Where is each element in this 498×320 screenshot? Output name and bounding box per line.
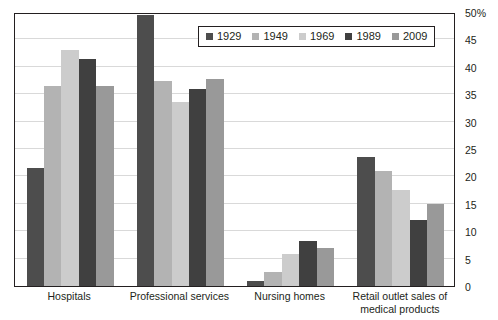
bar-group [27, 14, 114, 286]
y-axis-tick-label: 20 [465, 172, 477, 183]
y-axis-tick-label: 30 [465, 118, 477, 129]
x-axis-label-line: medical products [333, 303, 467, 316]
bar [189, 89, 206, 286]
legend-label: 1969 [310, 31, 334, 42]
bar [44, 86, 61, 286]
bar [96, 86, 113, 286]
y-axis-tick-label: 25 [465, 145, 477, 156]
bar [61, 50, 78, 286]
bar [137, 15, 154, 286]
legend-item[interactable]: 1989 [345, 31, 380, 42]
y-axis-tick-label: 50% [465, 8, 486, 19]
bar [392, 190, 409, 286]
y-axis-tick-label: 5 [465, 255, 471, 266]
x-axis-category-label: Retail outlet sales ofmedical products [333, 290, 467, 316]
legend-swatch-icon [206, 33, 213, 40]
bar-group [247, 14, 334, 286]
x-axis: HospitalsProfessional servicesNursing ho… [14, 290, 455, 320]
y-axis-tick-label: 40 [465, 63, 477, 74]
chart-legend: 19291949196919892009 [198, 26, 435, 47]
bar [317, 248, 334, 286]
bar [79, 59, 96, 286]
bars-layer [15, 14, 454, 286]
legend-item[interactable]: 1969 [299, 31, 334, 42]
legend-item[interactable]: 2009 [392, 31, 427, 42]
bar [282, 254, 299, 286]
bar-chart: 05101520253035404550% HospitalsProfessio… [0, 0, 498, 320]
legend-swatch-icon [299, 33, 306, 40]
legend-label: 1949 [263, 31, 287, 42]
bar [27, 168, 44, 286]
legend-swatch-icon [345, 33, 352, 40]
bar [299, 241, 316, 286]
legend-label: 1989 [356, 31, 380, 42]
legend-swatch-icon [392, 33, 399, 40]
y-axis-tick-label: 35 [465, 90, 477, 101]
y-axis-tick-label: 10 [465, 227, 477, 238]
bar [410, 220, 427, 286]
bar [357, 157, 374, 286]
y-axis-tick-label: 45 [465, 35, 477, 46]
bar [247, 281, 264, 286]
bar [264, 272, 281, 286]
bar [427, 204, 444, 286]
x-axis-label-line: Retail outlet sales of [333, 290, 467, 303]
plot-area [14, 13, 455, 287]
bar [375, 171, 392, 286]
legend-item[interactable]: 1949 [252, 31, 287, 42]
bar [206, 79, 223, 286]
y-axis: 05101520253035404550% [459, 0, 498, 320]
legend-swatch-icon [252, 33, 259, 40]
legend-label: 2009 [403, 31, 427, 42]
legend-item[interactable]: 1929 [206, 31, 241, 42]
bar [154, 81, 171, 287]
bar [172, 102, 189, 286]
y-axis-tick-label: 15 [465, 200, 477, 211]
bar-group [357, 14, 444, 286]
bar-group [137, 14, 224, 286]
legend-label: 1929 [217, 31, 241, 42]
